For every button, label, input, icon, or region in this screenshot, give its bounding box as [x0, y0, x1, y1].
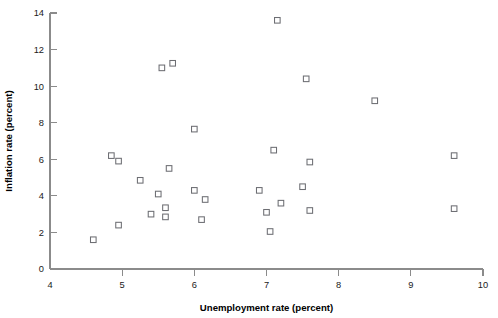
- data-point: [148, 211, 154, 217]
- data-point: [116, 222, 122, 228]
- x-tick-label-10: 10: [478, 280, 488, 290]
- data-point: [451, 153, 457, 159]
- y-tick-label-4: 4: [39, 191, 44, 201]
- data-point: [451, 206, 457, 212]
- axes-group: [50, 13, 483, 269]
- plot-svg: 0246810121445678910 Unemployment rate (p…: [0, 0, 498, 318]
- data-point: [91, 237, 97, 243]
- x-tick-label-6: 6: [192, 280, 197, 290]
- data-point: [278, 200, 284, 206]
- data-point: [267, 229, 273, 235]
- y-tick-label-12: 12: [34, 45, 44, 55]
- x-axis-title: Unemployment rate (percent): [200, 302, 333, 313]
- scatter-chart-figure: 0246810121445678910 Unemployment rate (p…: [0, 0, 498, 318]
- y-tick-label-10: 10: [34, 82, 44, 92]
- data-point: [300, 184, 306, 190]
- data-point: [275, 18, 281, 24]
- data-point: [137, 178, 143, 184]
- data-point: [303, 76, 309, 82]
- x-tick-label-9: 9: [408, 280, 413, 290]
- data-point: [307, 159, 313, 165]
- y-axis-title: Inflation rate (percent): [3, 90, 14, 191]
- y-tick-label-2: 2: [39, 228, 44, 238]
- x-tick-label-5: 5: [120, 280, 125, 290]
- data-point: [170, 60, 176, 66]
- data-point: [192, 188, 198, 194]
- data-point: [199, 217, 205, 223]
- data-point: [116, 158, 122, 164]
- data-point: [271, 147, 277, 153]
- data-markers-group: [91, 18, 457, 243]
- data-point: [192, 126, 198, 132]
- data-point: [109, 153, 115, 159]
- data-point: [256, 188, 262, 194]
- data-point: [163, 214, 169, 220]
- data-point: [159, 65, 165, 71]
- tick-labels-group: 0246810121445678910: [34, 8, 489, 290]
- data-point: [264, 210, 270, 216]
- y-tick-label-14: 14: [34, 8, 44, 18]
- data-point: [155, 191, 161, 197]
- data-point: [307, 208, 313, 214]
- data-point: [202, 197, 208, 203]
- x-tick-label-7: 7: [264, 280, 269, 290]
- data-point: [166, 166, 172, 172]
- data-point: [372, 98, 378, 104]
- y-tick-label-6: 6: [39, 155, 44, 165]
- y-tick-label-0: 0: [39, 264, 44, 274]
- x-tick-label-4: 4: [47, 280, 52, 290]
- x-tick-label-8: 8: [336, 280, 341, 290]
- ticks-group: [50, 13, 483, 276]
- y-tick-label-8: 8: [39, 118, 44, 128]
- data-point: [163, 205, 169, 211]
